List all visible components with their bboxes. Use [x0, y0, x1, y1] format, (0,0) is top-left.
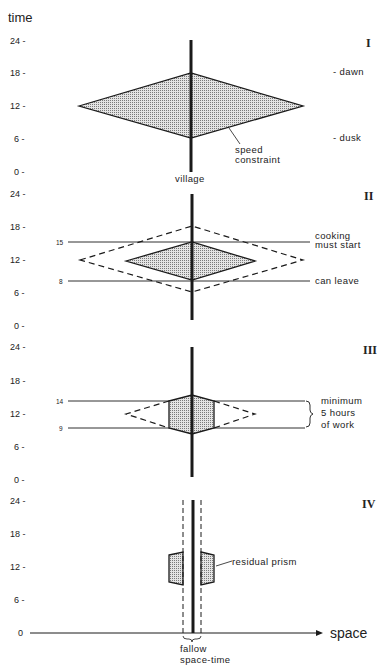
- constraint-label: constraint: [235, 154, 280, 165]
- tick-18: 18 -: [10, 68, 26, 78]
- can-leave-label: can leave: [315, 275, 359, 286]
- leader-line: [229, 128, 240, 144]
- panel-2: 24 - 18 - 12 - 6 - 0 - II 15 8 cooking m…: [10, 189, 374, 331]
- tick-0: 0 -: [14, 475, 25, 485]
- residual-prism-right: [201, 552, 214, 585]
- of-work-label: of work: [321, 419, 354, 430]
- lost-area-right-dashed: [214, 401, 255, 428]
- panel-4: 24 - 18 - 12 - 6 - 0 IV space residual p…: [10, 496, 376, 665]
- tick-0: 0 -: [14, 321, 25, 331]
- tick-0: 0: [18, 628, 23, 638]
- space-axis-arrow-icon: [316, 630, 323, 636]
- must-start-label: must start: [315, 239, 361, 250]
- tick-12: 12 -: [10, 562, 26, 572]
- panel-label: IV: [362, 497, 376, 511]
- brace: [306, 401, 313, 427]
- line-label-8: 8: [59, 278, 63, 285]
- tick-6: 6 -: [14, 442, 25, 452]
- tick-18: 18 -: [10, 529, 26, 539]
- panel-label: II: [364, 189, 374, 203]
- panel-1: 24 - 18 - 12 - 6 - 0 - I speed constrain…: [10, 36, 371, 184]
- tick-0: 0 -: [14, 167, 25, 177]
- tick-12: 12 -: [10, 101, 26, 111]
- dawn-label: - dawn: [333, 66, 364, 77]
- y-axis-title: time: [8, 10, 33, 25]
- tick-12: 12 -: [10, 409, 26, 419]
- tick-12: 12 -: [10, 255, 26, 265]
- time-geography-diagram: time 24 - 18 - 12 - 6 - 0 - I speed cons…: [0, 0, 389, 667]
- tick-24: 24 -: [10, 36, 26, 46]
- line-label-14: 14: [56, 398, 64, 405]
- hours-label: 5 hours: [321, 407, 356, 418]
- panel-label: I: [366, 36, 371, 50]
- tick-24: 24 -: [10, 189, 26, 199]
- tick-18: 18 -: [10, 222, 26, 232]
- tick-24: 24 -: [10, 342, 26, 352]
- residual-prism-left: [169, 552, 183, 585]
- tick-6: 6 -: [14, 134, 25, 144]
- village-label: village: [175, 173, 205, 184]
- dusk-label: - dusk: [333, 132, 361, 143]
- tick-18: 18 -: [10, 376, 26, 386]
- leader-line: [216, 561, 232, 566]
- lost-area-left-dashed: [126, 401, 169, 428]
- residual-prism-label: residual prism: [232, 556, 297, 567]
- tick-6: 6 -: [14, 595, 25, 605]
- space-time-label: space-time: [180, 654, 230, 665]
- space-axis-title: space: [330, 625, 368, 641]
- panel-3: 24 - 18 - 12 - 6 - 0 - III 14 9 minimum …: [10, 342, 377, 485]
- fallow-label: fallow: [180, 643, 207, 654]
- tick-24: 24 -: [10, 496, 26, 506]
- tick-6: 6 -: [14, 288, 25, 298]
- line-label-9: 9: [59, 425, 63, 432]
- brace: [183, 636, 201, 642]
- line-label-15: 15: [56, 239, 64, 246]
- minimum-label: minimum: [321, 395, 362, 406]
- panel-label: III: [363, 343, 377, 357]
